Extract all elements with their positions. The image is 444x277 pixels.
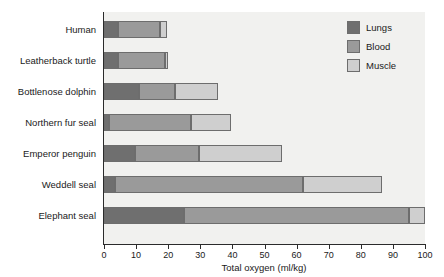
legend-item: Muscle [347,56,439,75]
x-tick-mark [232,245,233,249]
stacked-bar [104,83,218,100]
x-tick-label: 100 [411,250,439,260]
bar-segment-muscle [409,207,425,224]
stacked-bar [104,145,282,162]
bar-segment-muscle [175,83,218,100]
x-tick-mark [329,245,330,249]
legend-swatch-lungs [347,21,360,34]
bar-segment-muscle [191,114,232,131]
x-tick-mark [265,245,266,249]
bar-segment-muscle [160,21,166,38]
category-label: Elephant seal [0,207,96,224]
stacked-bar [104,207,425,224]
chart-legend: LungsBloodMuscle [347,18,439,75]
x-tick-label: 80 [347,250,375,260]
legend-swatch-muscle [347,59,360,72]
x-tick-label: 0 [90,250,118,260]
bar-row: Emperor penguin [0,145,444,162]
legend-item: Blood [347,37,439,56]
x-tick-mark [200,245,201,249]
category-label: Weddell seal [0,176,96,193]
x-tick-mark [136,245,137,249]
bar-segment-lungs [104,52,118,69]
x-tick-mark [393,245,394,249]
bar-segment-blood [118,52,165,69]
x-tick-mark [168,245,169,249]
bar-row: Weddell seal [0,176,444,193]
stacked-bar [104,176,382,193]
category-label: Bottlenose dolphin [0,83,96,100]
bar-segment-blood [118,21,160,38]
bar-segment-lungs [104,176,115,193]
bar-segment-blood [109,114,191,131]
x-tick-label: 90 [379,250,407,260]
bar-row: Bottlenose dolphin [0,83,444,100]
bar-segment-lungs [104,21,118,38]
bar-segment-muscle [165,52,168,69]
x-tick-label: 50 [251,250,279,260]
legend-label: Blood [366,41,390,52]
category-label: Leatherback turtle [0,52,96,69]
bar-segment-blood [135,145,199,162]
x-tick-mark [297,245,298,249]
chart-figure: HumanLeatherback turtleBottlenose dolphi… [0,0,444,277]
x-tick-mark [104,245,105,249]
stacked-bar [104,52,168,69]
bar-segment-lungs [104,83,139,100]
x-tick-label: 10 [122,250,150,260]
bar-segment-blood [115,176,303,193]
bar-segment-muscle [303,176,382,193]
bar-segment-lungs [104,207,184,224]
bar-row: Northern fur seal [0,114,444,131]
category-label: Human [0,21,96,38]
legend-swatch-blood [347,40,360,53]
legend-label: Lungs [366,22,392,33]
legend-item: Lungs [347,18,439,37]
bar-segment-lungs [104,145,135,162]
x-tick-label: 30 [186,250,214,260]
bar-row: Elephant seal [0,207,444,224]
bar-segment-blood [139,83,175,100]
x-axis-title: Total oxygen (ml/kg) [103,262,425,273]
x-tick-label: 20 [154,250,182,260]
bar-segment-blood [184,207,409,224]
x-tick-label: 40 [218,250,246,260]
stacked-bar [104,21,167,38]
bar-segment-muscle [199,145,282,162]
x-tick-mark [425,245,426,249]
x-tick-label: 60 [283,250,311,260]
legend-label: Muscle [366,60,396,71]
stacked-bar [104,114,231,131]
category-label: Emperor penguin [0,145,96,162]
category-label: Northern fur seal [0,114,96,131]
x-tick-mark [361,245,362,249]
x-tick-label: 70 [315,250,343,260]
